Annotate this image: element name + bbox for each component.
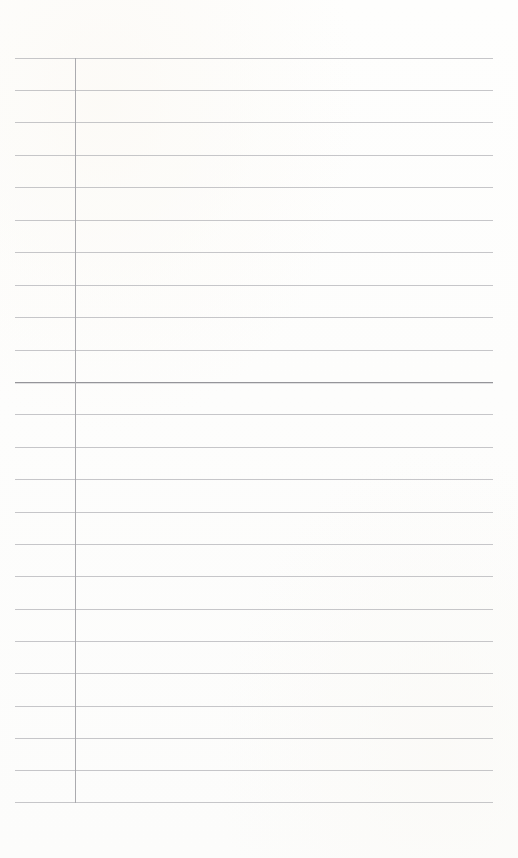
notebook-page [0,0,518,858]
writing-area[interactable] [76,58,493,803]
margin-area[interactable] [15,58,75,803]
